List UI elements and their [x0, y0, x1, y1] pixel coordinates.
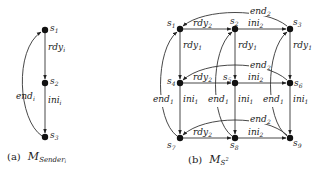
diagram-canvas: s1 s2 s3 rdyi inii endi (a) MSenderi — [0, 0, 317, 176]
edge-label-b-ini1-col1: ini1 — [183, 94, 198, 105]
node-label-b-s6: s6 — [294, 78, 303, 89]
caption-a: (a) MSenderi — [7, 145, 67, 164]
edge-label-a-end: endi — [16, 91, 35, 102]
edge-label-b-ini1-col3: ini1 — [293, 94, 308, 105]
node-b-s7 — [177, 135, 183, 141]
node-b-s6 — [287, 80, 293, 86]
node-label-a-s3: s3 — [50, 130, 59, 141]
edge-label-b-rdy1-col1: rdy1 — [183, 40, 202, 51]
node-label-b-s4: s4 — [167, 76, 176, 87]
node-a-s1 — [42, 27, 48, 33]
edge-label-b-rdy2-row2: rdy2 — [193, 72, 212, 83]
node-b-s5 — [232, 80, 238, 86]
edge-label-b-rdy2-row1: rdy2 — [193, 18, 212, 29]
node-label-b-s2: s2 — [230, 16, 239, 27]
node-a-s3 — [42, 134, 48, 140]
edge-label-b-rdy1-col2: rdy1 — [238, 40, 257, 51]
node-label-b-s8: s8 — [230, 140, 239, 151]
caption-b: (b) MS2 — [188, 148, 229, 167]
node-b-s4 — [177, 80, 183, 86]
node-label-b-s1: s1 — [167, 18, 175, 29]
node-label-b-s5: s5 — [223, 72, 232, 83]
edge-label-b-rdy1-col3: rdy1 — [293, 40, 312, 51]
edge-b-s9-s3 — [271, 32, 288, 136]
diagram-b: s1 s2 s3 s4 s5 s6 s7 s8 s9 end2 end2 end… — [152, 6, 312, 167]
node-b-s1 — [177, 26, 183, 32]
edge-label-b-ini2-row1: ini2 — [248, 18, 264, 29]
node-label-a-s1: s1 — [50, 23, 58, 34]
node-label-b-s3: s3 — [293, 17, 302, 28]
diagram-a: s1 s2 s3 rdyi inii endi (a) MSenderi — [7, 23, 67, 164]
node-label-b-s7: s7 — [167, 140, 176, 151]
edge-label-b-ini2-row2: ini2 — [248, 72, 264, 83]
edge-label-b-ini2-row3: ini2 — [248, 127, 264, 138]
node-a-s2 — [42, 80, 48, 86]
edge-label-b-ini1-col2: ini1 — [238, 94, 253, 105]
node-label-b-s9: s9 — [293, 138, 302, 149]
edge-a-s3-s1 — [22, 32, 42, 136]
node-label-a-s2: s2 — [50, 76, 59, 87]
edge-label-a-rdy: rdyi — [48, 42, 65, 53]
edge-label-b-rdy2-row3: rdy2 — [193, 127, 212, 138]
edge-label-a-ini: inii — [48, 95, 62, 106]
